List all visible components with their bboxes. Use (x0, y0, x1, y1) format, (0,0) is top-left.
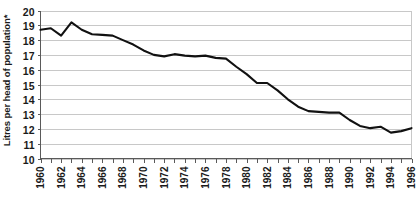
data-series-line (41, 22, 412, 132)
x-tick-label: 1960 (35, 166, 46, 189)
x-tick-label: 1988 (324, 166, 335, 189)
y-tick-label: 18 (23, 35, 35, 47)
y-tick-label: 16 (23, 65, 35, 77)
y-tick-label: 12 (23, 124, 35, 136)
x-tick-label: 1982 (262, 166, 273, 189)
y-tick-label: 14 (23, 94, 35, 106)
x-tick-label: 1996 (406, 166, 417, 189)
x-tick-label: 1986 (303, 166, 314, 189)
y-tick-label: 19 (23, 20, 35, 32)
x-tick-label: 1984 (282, 166, 293, 189)
y-tick-label: 15 (23, 80, 35, 92)
x-tick-label: 1990 (344, 166, 355, 189)
x-tick-label: 1994 (385, 166, 396, 189)
y-tick-label: 17 (23, 50, 35, 62)
chart-plot-area: 1011121314151617181920 19601962196419661… (0, 0, 419, 198)
x-tick-label: 1970 (138, 166, 149, 189)
y-tick-label: 20 (23, 6, 35, 18)
y-tick-label: 10 (23, 154, 35, 166)
y-tick-labels-group: 1011121314151617181920 (23, 6, 35, 166)
x-tick-label: 1964 (76, 166, 87, 189)
x-tick-label: 1962 (56, 166, 67, 189)
y-tick-label: 11 (23, 139, 34, 151)
x-tick-label: 1992 (365, 166, 376, 189)
x-tick-label: 1976 (200, 166, 211, 189)
gridlines-group (41, 11, 412, 160)
x-tick-label: 1972 (159, 166, 170, 189)
y-tick-label: 13 (23, 109, 35, 121)
x-tick-label: 1974 (179, 166, 190, 189)
x-tick-labels-group: 1960196219641966196819701972197419761978… (35, 166, 417, 189)
x-tick-label: 1966 (97, 166, 108, 189)
x-tick-label: 1980 (241, 166, 252, 189)
line-chart: Litres per head of population* 101112131… (0, 0, 419, 198)
x-tick-label: 1968 (117, 166, 128, 189)
x-tick-label: 1978 (221, 166, 232, 189)
